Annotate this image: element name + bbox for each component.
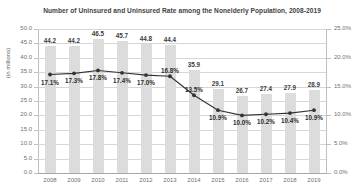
y-axis-right-tick-mark	[327, 29, 331, 30]
y-axis-left-tick-label: 40.0	[2, 54, 32, 60]
bar-value-label: 44.2	[60, 37, 88, 44]
y-axis-left-tick-label: 25.0	[2, 97, 32, 103]
line-value-label: 16.8%	[156, 67, 184, 74]
y-axis-left-tick-label: 30.0	[2, 83, 32, 89]
plot-right-axis-line	[326, 29, 327, 174]
y-axis-right-tick-mark	[327, 58, 331, 59]
y-axis-right-tick-label: 15.0%	[334, 83, 364, 89]
line-value-label: 17.0%	[132, 79, 160, 86]
bar-value-label: 28.9	[300, 81, 328, 88]
chart-container: Number of Uninsured and Uninsured Rate a…	[0, 0, 364, 195]
line-marker	[192, 93, 196, 97]
line-marker	[144, 73, 148, 77]
plot-area	[38, 29, 326, 173]
y-axis-left-tick-label: 0.0	[2, 169, 32, 175]
y-axis-left-tick-label: 45.0	[2, 39, 32, 45]
line-marker	[48, 73, 52, 77]
line-marker	[288, 111, 292, 115]
y-axis-right-tick-mark	[327, 173, 331, 174]
line-marker	[72, 71, 76, 75]
line-marker	[216, 108, 220, 112]
line-value-label: 13.5%	[180, 86, 208, 93]
y-axis-right-tick-label: 20.0%	[334, 54, 364, 60]
y-axis-right-tick-label: 10.0%	[334, 111, 364, 117]
bar-value-label: 35.9	[180, 61, 208, 68]
line-marker	[264, 112, 268, 116]
y-axis-left-tick-label: 15.0	[2, 126, 32, 132]
line-marker	[96, 69, 100, 73]
y-axis-left-tick-label: 35.0	[2, 68, 32, 74]
bar-value-label: 44.4	[156, 36, 184, 43]
y-axis-right-tick-label: 0.0%	[334, 169, 364, 175]
y-axis-right-tick-mark	[327, 144, 331, 145]
line-marker	[168, 74, 172, 78]
gridline	[38, 173, 326, 174]
x-axis-tick-label: 2019	[300, 177, 328, 183]
chart-title: Number of Uninsured and Uninsured Rate a…	[0, 6, 364, 15]
line-marker	[120, 71, 124, 75]
y-axis-right-tick-label: 25.0%	[334, 25, 364, 31]
y-axis-left-tick-label: 5.0	[2, 155, 32, 161]
y-axis-right-tick-label: 5.0%	[334, 140, 364, 146]
y-axis-left-tick-label: 20.0	[2, 111, 32, 117]
line-series	[38, 29, 326, 173]
line-marker	[240, 114, 244, 118]
y-axis-left-tick-label: 50.0	[2, 25, 32, 31]
y-axis-title: (in millions)	[5, 3, 11, 123]
y-axis-left-tick-label: 10.0	[2, 140, 32, 146]
line-value-label: 10.9%	[300, 114, 328, 121]
line-marker	[312, 108, 316, 112]
